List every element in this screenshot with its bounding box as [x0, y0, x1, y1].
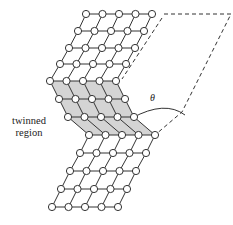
twinned-region-label: twinned region: [6, 115, 52, 139]
twinned-region-shading: [50, 81, 155, 135]
twinning-lattice-diagram: [0, 0, 233, 225]
twinned-label-line2: region: [6, 127, 52, 139]
twinned-label-line1: twinned: [6, 115, 52, 127]
theta-label: θ: [150, 92, 155, 104]
dashed-parent-outline: [122, 14, 231, 135]
